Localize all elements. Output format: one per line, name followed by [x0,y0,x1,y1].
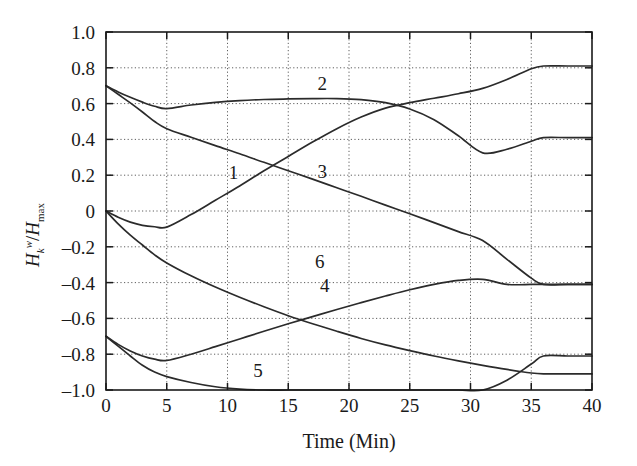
figure-container: 0510152025303540 –1.0–0.8–0.6–0.4–0.200.… [0,0,637,466]
x-tick-label: 10 [218,395,237,416]
x-tick-label: 25 [400,395,419,416]
curve-label-4: 4 [320,275,330,296]
x-tick-label: 15 [279,395,298,416]
y-tick-label: –0.6 [61,308,95,329]
y-tick-label: 0 [86,201,96,222]
x-tick-label: 0 [101,395,111,416]
y-axis-title-text: Hkw/Hmax [22,172,44,298]
curve-label-1: 1 [229,162,239,183]
y-axis-title: Hkw/Hmax [14,176,48,296]
x-tick-label: 20 [340,395,359,416]
x-tick-label: 35 [522,395,541,416]
curve-labels: 123456 [229,73,330,380]
gridlines [106,32,592,390]
y-tick-label: 0.2 [71,165,95,186]
curve-label-2: 2 [318,73,328,94]
x-tick-label: 30 [461,395,480,416]
x-tick-label: 5 [162,395,172,416]
curve-2 [106,86,592,154]
y-tick-labels: –1.0–0.8–0.6–0.4–0.200.20.40.60.81.0 [61,22,96,401]
x-axis-title: Time (Min) [302,430,395,453]
y-tick-label: 1.0 [71,22,95,43]
x-tick-label: 40 [583,395,602,416]
curve-label-5: 5 [253,360,263,381]
y-tick-label: –1.0 [61,380,95,401]
y-tick-label: 0.6 [71,94,95,115]
x-tick-labels: 0510152025303540 [101,395,601,416]
y-tick-label: –0.2 [61,237,95,258]
curve-label-3: 3 [318,161,328,182]
y-tick-label: 0.8 [71,58,95,79]
y-tick-label: 0.4 [71,129,95,150]
y-tick-label: –0.8 [61,344,95,365]
line-chart: 0510152025303540 –1.0–0.8–0.6–0.4–0.200.… [0,0,637,466]
curve-label-6: 6 [315,251,325,272]
y-tick-label: –0.4 [61,273,96,294]
